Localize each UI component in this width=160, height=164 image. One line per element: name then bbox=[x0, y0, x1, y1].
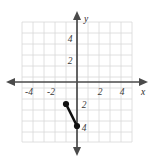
x-axis-name: x bbox=[140, 87, 146, 97]
coordinate-plane-svg: -4 -2 2 4 4 2 2 4 x y bbox=[0, 0, 160, 164]
x-axis-arrow-left bbox=[6, 78, 15, 86]
x-axis-arrow-right bbox=[139, 78, 148, 86]
y-tick-label: 4 bbox=[82, 123, 87, 133]
x-tick-label: -4 bbox=[25, 87, 33, 97]
y-axis-arrow-up bbox=[73, 11, 81, 20]
y-tick-label: 2 bbox=[82, 100, 87, 110]
x-tick-label: 4 bbox=[120, 87, 125, 97]
y-axis-name: y bbox=[83, 14, 89, 24]
x-tick-label: 2 bbox=[98, 87, 103, 97]
segment-line bbox=[66, 104, 77, 126]
segment-endpoint-dot bbox=[63, 101, 69, 107]
y-axis-arrow-down bbox=[73, 147, 81, 156]
segment-endpoint-dot bbox=[74, 123, 80, 129]
y-tick-label: 4 bbox=[68, 34, 73, 44]
coordinate-graph-figure: -4 -2 2 4 4 2 2 4 x y bbox=[0, 0, 160, 164]
y-tick-label: 2 bbox=[68, 56, 73, 66]
x-tick-label: -2 bbox=[47, 87, 55, 97]
